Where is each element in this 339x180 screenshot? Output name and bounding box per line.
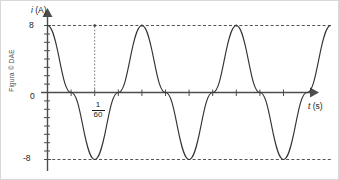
x-axis-label: t (s) (308, 101, 323, 111)
period-numerator: 1 (87, 101, 109, 109)
period-annotation: 1 60 (87, 101, 109, 120)
period-denominator: 60 (87, 111, 109, 119)
y-axis-unit: (A) (35, 5, 46, 15)
x-axis-unit: (s) (313, 101, 323, 111)
x-axis-symbol: t (308, 101, 310, 111)
y-tick-label-negative-eight: -8 (23, 153, 31, 163)
y-axis-label: i (A) (31, 5, 47, 15)
figure-canvas: Figura © DAE (0, 0, 339, 180)
y-tick-label-positive-eight: 8 (29, 20, 34, 30)
y-axis-symbol: i (31, 5, 33, 15)
period-marker-peak-dot (93, 24, 96, 27)
y-tick-label-zero: 0 (30, 91, 35, 101)
current-vs-time-plot (1, 1, 339, 180)
